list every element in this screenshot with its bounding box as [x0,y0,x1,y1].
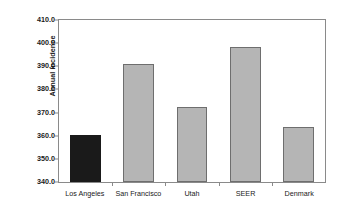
x-axis-label-utah: Utah [165,189,219,198]
bar-slot [219,20,272,182]
bar-san-francisco[interactable] [123,64,154,182]
bar-los-angeles[interactable] [70,135,101,182]
x-axis-tick-mark [219,182,220,186]
bar-slot [59,20,112,182]
x-axis-label-denmark: Denmark [272,189,326,198]
x-axis-tick-mark [272,182,273,186]
x-axis-label-los-angeles: Los Angeles [58,189,112,198]
bar-chart: Annual incidence (per 100,000) 410.0400.… [0,0,345,212]
bar-slot [165,20,218,182]
bar-denmark[interactable] [283,127,314,182]
bar-slot [272,20,325,182]
x-axis-tick-mark [165,182,166,186]
bar-slot [112,20,165,182]
plot-area: 410.0400.0390.0380.0370.0360.0350.0340.0 [58,19,326,183]
x-axis-label-san-francisco: San Francisco [112,189,166,198]
x-axis-label-seer: SEER [219,189,273,198]
bar-utah[interactable] [177,107,208,182]
x-axis-tick-mark [112,182,113,186]
x-axis-labels: Los AngelesSan FranciscoUtahSEERDenmark [58,189,326,198]
bar-seer[interactable] [230,47,261,182]
bars-layer [59,20,325,182]
